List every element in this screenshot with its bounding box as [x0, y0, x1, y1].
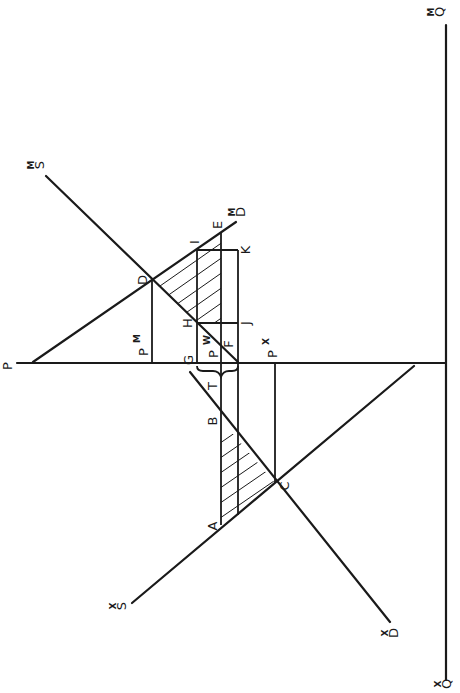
svg-text:X: X [108, 602, 118, 609]
svg-text:P: P [265, 350, 280, 358]
point-f-label: F [221, 340, 236, 347]
svg-text:A: A [205, 521, 220, 530]
svg-text:W: W [202, 335, 212, 345]
tariff-brace [197, 366, 238, 377]
svg-text:M: M [426, 7, 436, 16]
svg-text:J: J [238, 321, 253, 326]
point-e-label: E [210, 221, 225, 229]
supply-export-curve [132, 366, 414, 603]
svg-text:D: D [135, 275, 150, 285]
svg-text:X: X [261, 338, 271, 345]
price-axis-label: P [0, 362, 15, 370]
svg-text:F: F [221, 340, 236, 347]
supply-export-label: S X [108, 602, 129, 610]
svg-text:P: P [0, 362, 15, 370]
tariff-label: T [205, 382, 220, 391]
quantity-import-label: Q M [426, 7, 447, 17]
svg-text:H: H [180, 318, 195, 328]
quantity-export-label: Q X [433, 679, 454, 689]
svg-text:I: I [187, 240, 202, 244]
point-b-label: B [205, 417, 220, 426]
svg-text:B: B [205, 417, 220, 426]
point-g-label: G [181, 355, 196, 365]
demand-import-label: D M [227, 207, 248, 217]
svg-text:M: M [26, 160, 36, 169]
svg-text:P: P [136, 348, 151, 356]
point-h-label: H [180, 318, 195, 328]
trade-diagram: P Q M Q X S M D M S X D X P M P W P X T … [0, 0, 460, 693]
svg-text:C: C [277, 481, 292, 490]
svg-text:G: G [181, 355, 196, 365]
svg-text:X: X [433, 680, 443, 687]
svg-text:M: M [132, 334, 142, 343]
export-price-label: P X [261, 338, 280, 358]
supply-import-label: S M [26, 160, 47, 169]
demand-export-curve [190, 372, 390, 622]
hatched-region-upper [140, 230, 240, 405]
point-j-label: J [238, 321, 253, 326]
svg-text:X: X [380, 629, 390, 636]
point-a-label: A [205, 521, 220, 530]
point-k-label: K [238, 245, 253, 254]
hatched-region-lower [210, 395, 290, 540]
point-c-label: C [277, 481, 292, 490]
svg-text:T: T [205, 382, 220, 391]
svg-text:K: K [238, 245, 253, 254]
svg-text:P: P [206, 350, 221, 358]
import-price-label: P M [132, 334, 151, 356]
svg-text:M: M [227, 207, 237, 216]
point-i-label: I [187, 240, 202, 244]
point-d-label: D [135, 275, 150, 285]
demand-export-label: D X [380, 628, 401, 638]
svg-text:E: E [210, 221, 225, 229]
world-price-label: P W [202, 335, 221, 358]
